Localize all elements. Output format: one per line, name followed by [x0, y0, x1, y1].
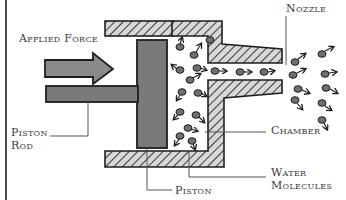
water-molecule-icon — [176, 38, 184, 50]
water-molecule-icon — [318, 47, 333, 57]
water-molecule-icon — [174, 109, 184, 119]
water-molecule-icon — [190, 44, 201, 58]
water-molecule-icon — [260, 69, 274, 76]
water-molecule-icon — [194, 90, 206, 97]
water-molecule-icon — [192, 112, 204, 122]
label-nozzle: Nozzle — [286, 3, 326, 15]
water-molecule-icon — [318, 100, 331, 110]
water-molecule-icon — [193, 65, 206, 72]
label-piston: Piston — [175, 185, 212, 197]
water-molecule-icon — [322, 85, 337, 93]
label-chamber: Chamber — [271, 125, 320, 137]
force-arrow-icon — [45, 53, 113, 84]
water-molecule-icon — [177, 89, 186, 100]
label-piston-rod-line2: Rod — [11, 140, 33, 152]
water-molecule-icon — [289, 69, 305, 78]
water-molecule-icon — [211, 68, 226, 75]
water-molecule-icon — [321, 71, 336, 78]
piston-diagram: Applied Force Nozzle Piston Rod Chamber … — [0, 0, 346, 200]
label-piston-rod-line1: Piston — [11, 127, 48, 139]
label-water-molecules-line1: Water — [271, 167, 306, 179]
water-molecule-icon — [175, 133, 184, 145]
water-molecule-icon — [172, 65, 184, 73]
water-molecule-icon — [184, 125, 197, 132]
water-molecule-icon — [236, 69, 251, 76]
water-molecule-icon — [186, 74, 200, 83]
water-molecule-icon — [294, 86, 309, 93]
water-molecule-icon — [206, 37, 214, 44]
piston-rod-leader — [50, 102, 88, 136]
piston-head — [137, 40, 167, 148]
label-applied-force: Applied Force — [19, 33, 98, 45]
water-molecule-icon — [188, 138, 196, 149]
label-water-molecules-line2: Molecules — [271, 180, 332, 192]
piston-rod — [46, 86, 138, 102]
water-molecule-icon — [291, 54, 305, 65]
water-molecule-icon — [291, 97, 302, 109]
